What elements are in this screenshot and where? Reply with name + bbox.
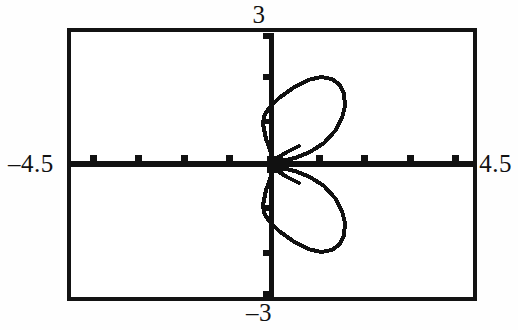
upper-petal — [263, 77, 345, 161]
screenshot-root: 3 –3 –4.5 4.5 — [0, 0, 518, 330]
x-min-label: –4.5 — [8, 151, 54, 176]
x-max-label: 4.5 — [479, 151, 512, 176]
y-max-label: 3 — [0, 2, 518, 27]
y-min-label: –3 — [0, 300, 518, 325]
polar-plot-canvas — [67, 28, 477, 301]
lower-petal — [263, 168, 345, 252]
